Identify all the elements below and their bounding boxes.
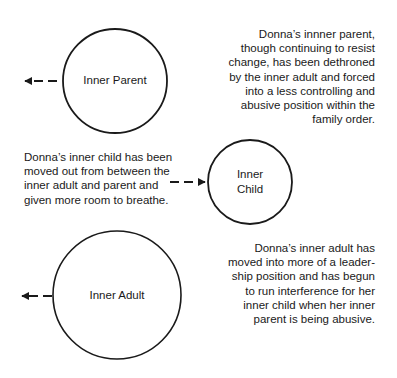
note-line: family order. (229, 112, 375, 126)
note-line: into a less controlling and (229, 84, 375, 98)
note-line: to run interference for her (228, 284, 375, 298)
note-line: parent is being abusive. (228, 312, 375, 326)
note-line: by the inner adult and forced (229, 70, 375, 84)
inner-child-label-line2: Child (210, 182, 290, 197)
note-line: inner adult and parent and (24, 178, 172, 192)
inner-parent-label: Inner Parent (65, 73, 165, 88)
inner-parent-note: Donna’s innner parent, though continuing… (229, 27, 375, 126)
note-line: Donna’s inner adult has (228, 241, 375, 255)
inner-adult-label: Inner Adult (67, 288, 167, 303)
inner-adult-note: Donna’s inner adult has moved into more … (228, 241, 375, 326)
note-line: given more room to breathe. (24, 193, 172, 207)
note-line: abusive position within the (229, 98, 375, 112)
inner-child-note: Donna’s inner child has been moved out f… (24, 150, 172, 207)
note-line: Donna’s inner child has been (24, 150, 172, 164)
note-line: Donna’s innner parent, (229, 27, 375, 41)
note-line: inner child when her inner (228, 298, 375, 312)
note-line: moved into more of a leader- (228, 255, 375, 269)
note-line: ship position and has begun (228, 269, 375, 283)
note-line: moved out from between the (24, 164, 172, 178)
note-line: though continuing to resist (229, 41, 375, 55)
inner-child-label-line1: Inner (210, 167, 290, 182)
note-line: change, has been dethroned (229, 55, 375, 69)
inner-child-label: Inner Child (210, 167, 290, 197)
